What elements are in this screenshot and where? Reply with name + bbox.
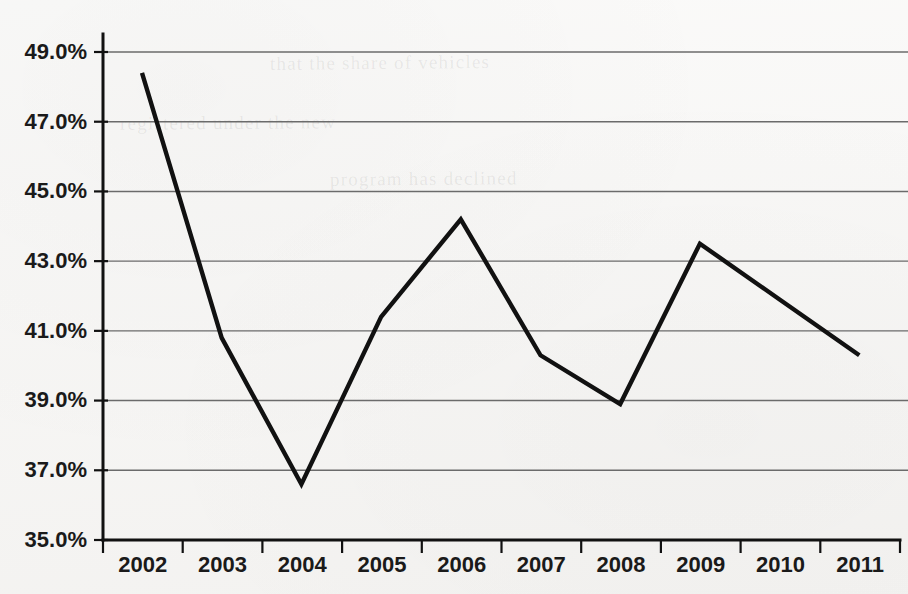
y-axis-tick-label: 47.0% — [25, 109, 87, 134]
y-axis-tick-label: 49.0% — [25, 39, 87, 64]
x-axis-tick-label: 2005 — [357, 552, 406, 577]
x-axis-tick-label: 2004 — [278, 552, 328, 577]
x-axis-tick-label: 2010 — [756, 552, 805, 577]
x-axis-tick-label: 2011 — [836, 552, 884, 577]
y-axis-tick-label: 45.0% — [25, 178, 87, 203]
y-axis-tick-label: 37.0% — [25, 457, 87, 482]
y-tick-marks-group — [94, 52, 108, 540]
y-axis-tick-label: 35.0% — [25, 527, 87, 552]
x-axis-tick-label: 2008 — [597, 552, 646, 577]
x-axis-tick-label: 2009 — [676, 552, 725, 577]
chart-canvas: 35.0%37.0%39.0%41.0%43.0%45.0%47.0%49.0%… — [0, 0, 908, 594]
x-axis-tick-label: 2007 — [517, 552, 566, 577]
x-axis-tick-labels-group: 2002200320042005200620072008200920102011 — [118, 552, 884, 577]
y-axis-tick-labels-group: 35.0%37.0%39.0%41.0%43.0%45.0%47.0%49.0% — [25, 39, 87, 552]
y-axis-tick-label: 39.0% — [25, 387, 87, 412]
x-axis-tick-label: 2003 — [198, 552, 247, 577]
line-chart: 35.0%37.0%39.0%41.0%43.0%45.0%47.0%49.0%… — [0, 0, 908, 594]
y-axis-tick-label: 41.0% — [25, 318, 87, 343]
x-axis-tick-label: 2002 — [118, 552, 167, 577]
gridlines-group — [103, 52, 908, 470]
x-axis-tick-label: 2006 — [437, 552, 486, 577]
y-axis-tick-label: 43.0% — [25, 248, 87, 273]
data-series-line — [142, 73, 859, 484]
